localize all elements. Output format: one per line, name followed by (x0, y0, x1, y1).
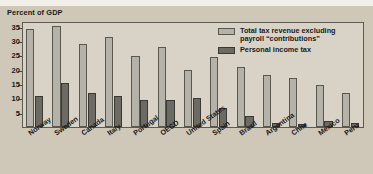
bar-united-states-total-tax-revenue (184, 70, 192, 127)
legend-label-personal-income-tax: Personal income tax (240, 46, 311, 54)
legend-label-total-tax-revenue: Total tax revenue excluding payroll “con… (240, 27, 360, 44)
bar-norway-total-tax-revenue (26, 29, 34, 127)
bar-italy-total-tax-revenue (105, 37, 113, 127)
legend-swatch-personal-income-tax (218, 47, 235, 54)
bar-sweden-total-tax-revenue (52, 26, 60, 127)
y-axis-tick-label: 35 (4, 24, 20, 32)
bar-argentina-total-tax-revenue (263, 75, 271, 127)
legend-item: Total tax revenue excluding payroll “con… (218, 27, 360, 44)
y-axis-tick-label: 30 (4, 38, 20, 46)
bar-peru-total-tax-revenue (342, 93, 350, 127)
bar-portugal-total-tax-revenue (131, 56, 139, 127)
bar-mexico-total-tax-revenue (316, 85, 324, 127)
legend-swatch-total-tax-revenue (218, 28, 235, 35)
legend-item: Personal income tax (218, 46, 360, 54)
chart-figure: Percent of GDP 5101520253035 NorwaySwede… (0, 0, 373, 174)
y-axis-tick-label: 15 (4, 81, 20, 89)
bar-oecd-total-tax-revenue (158, 47, 166, 127)
bar-canada-total-tax-revenue (79, 44, 87, 127)
y-axis-tick-label: 5 (4, 110, 20, 118)
y-axis-title: Percent of GDP (7, 8, 63, 17)
chart-legend: Total tax revenue excluding payroll “con… (218, 27, 360, 56)
y-axis-tick-label: 20 (4, 67, 20, 75)
top-white-band (0, 0, 373, 6)
bar-brazil-total-tax-revenue (237, 67, 245, 127)
y-axis-tick-label: 25 (4, 52, 20, 60)
y-axis-tick-label: 10 (4, 95, 20, 103)
